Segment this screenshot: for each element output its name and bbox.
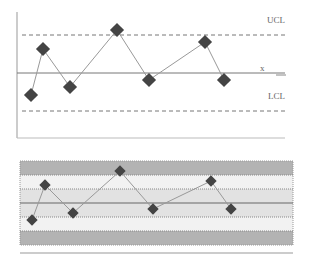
lcl-label: LCL: [268, 91, 285, 101]
marker: [36, 42, 50, 56]
control-charts: UCL x LCL: [0, 0, 309, 268]
marker: [198, 35, 212, 49]
marker: [63, 80, 77, 94]
marker: [142, 73, 156, 87]
ucl-label: UCL: [267, 15, 285, 25]
marker: [24, 88, 38, 102]
zone-a-upper: [20, 161, 293, 175]
zone-b-lower: [20, 217, 293, 231]
top-control-chart: UCL x LCL: [17, 12, 286, 138]
data-line: [31, 30, 224, 95]
zone-b-upper: [20, 175, 293, 189]
zone-a-lower: [20, 231, 293, 245]
center-label: x: [260, 63, 265, 73]
marker: [217, 73, 231, 87]
bottom-zone-chart: [20, 161, 293, 253]
